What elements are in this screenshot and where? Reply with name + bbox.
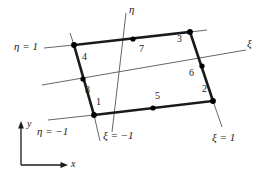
node-label-4: 4 — [82, 52, 87, 62]
node-label-6: 6 — [189, 68, 194, 78]
node-marker-4 — [71, 42, 77, 48]
xi-equals-one-label: ξ = 1 — [212, 132, 235, 143]
node-marker-7 — [130, 36, 135, 41]
node-label-2: 2 — [202, 84, 207, 94]
node-label-8: 8 — [85, 85, 90, 95]
node-label-1: 1 — [96, 97, 101, 107]
xi-equals-minus-one-leader — [94, 115, 100, 141]
eta-axis-label: η — [129, 4, 134, 15]
node-label-7: 7 — [139, 44, 144, 54]
eta-equals-one-label: η = 1 — [14, 41, 38, 52]
xi-axis-label: ξ — [247, 38, 252, 49]
global-x-axis-arrowhead — [61, 162, 69, 168]
xi-equals-one-leader — [213, 101, 222, 127]
node-marker-6 — [199, 63, 204, 68]
eta-equals-one-leader — [44, 45, 74, 48]
node-label-3: 3 — [177, 34, 182, 44]
global-x-axis-label: x — [71, 159, 75, 169]
node-marker-8 — [80, 76, 85, 81]
node-label-5: 5 — [155, 91, 160, 101]
xi-equals-minus-one-label: ξ = −1 — [103, 130, 134, 141]
node-marker-5 — [150, 105, 155, 110]
node-marker-1 — [91, 112, 97, 118]
figure-canvas — [0, 0, 279, 185]
eta-equals-minus-one-leader — [48, 115, 94, 120]
isoparametric-element-figure: 1 2 3 4 5 6 7 8 ξ η η = 1 η = −1 ξ = −1 … — [0, 0, 279, 185]
global-y-axis-arrowhead — [18, 121, 24, 129]
xi-axis-line — [42, 50, 246, 85]
eta-equals-minus-one-label: η = −1 — [37, 126, 68, 137]
global-y-axis-label: y — [27, 119, 31, 129]
node-marker-2 — [210, 98, 216, 104]
node-marker-3 — [187, 29, 193, 35]
